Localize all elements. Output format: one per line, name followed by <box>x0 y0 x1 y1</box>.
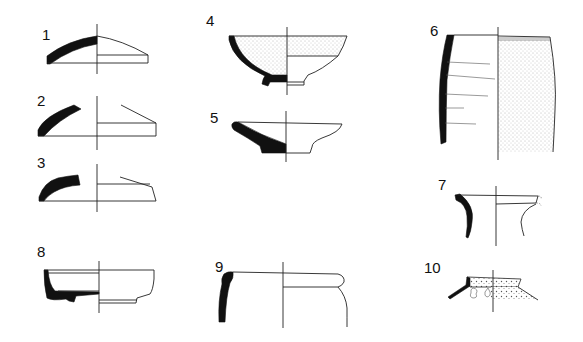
section-profile <box>455 194 473 238</box>
figure-10: 10 <box>424 259 538 312</box>
section-profile <box>38 105 81 136</box>
body-outline <box>338 287 347 327</box>
section-profile <box>448 277 470 299</box>
section-profile <box>39 175 80 201</box>
rim-outline <box>233 272 344 287</box>
figure-label: 4 <box>206 12 214 29</box>
section-profile <box>44 270 99 302</box>
figure-label: 5 <box>210 109 218 126</box>
figure-label: 2 <box>37 92 45 109</box>
figure-label: 3 <box>37 154 45 171</box>
figure-5: 5 <box>210 109 342 162</box>
figure-9: 9 <box>215 258 347 328</box>
neck-outline <box>521 204 536 236</box>
figure-3: 3 <box>37 154 156 212</box>
section-profile <box>232 122 286 153</box>
figure-label: 10 <box>424 259 441 276</box>
figure-8: 8 <box>37 243 154 313</box>
figure-6: 6 <box>430 22 555 160</box>
figure-label: 8 <box>37 243 45 260</box>
figure-2: 2 <box>37 92 156 150</box>
rim-band <box>467 277 521 287</box>
figure-1: 1 <box>42 24 148 74</box>
rim-outline <box>458 195 538 204</box>
pottery-plate: 1 2 3 4 5 6 <box>0 0 583 342</box>
lug-1 <box>470 288 477 298</box>
figure-label: 1 <box>42 26 50 43</box>
section-profile <box>47 36 97 64</box>
figure-label: 9 <box>215 258 223 275</box>
figure-7: 7 <box>438 176 541 246</box>
lug-2 <box>485 288 490 297</box>
figure-4: 4 <box>206 12 347 95</box>
section-profile <box>439 35 454 144</box>
figure-label: 6 <box>430 22 438 39</box>
figure-label: 7 <box>438 176 446 193</box>
section-profile <box>219 272 233 322</box>
